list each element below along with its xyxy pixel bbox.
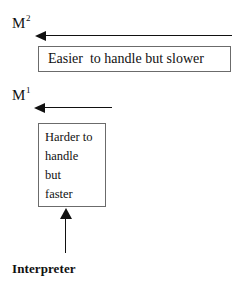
box-harder-line-3: but bbox=[45, 166, 105, 185]
arrow-left-middle bbox=[34, 102, 112, 114]
level-label-m2-base: M bbox=[12, 15, 26, 31]
box-easier-to-handle-but-slower: Easier to handle but slower bbox=[38, 46, 231, 72]
box-easier-label: Easier to handle but slower bbox=[48, 52, 204, 66]
arrow-shaft-bottom bbox=[65, 217, 67, 253]
arrow-left-top bbox=[35, 30, 232, 42]
diagram-canvas: M2 Easier to handle but slower M1 Harder… bbox=[0, 0, 247, 281]
arrow-up-bottom bbox=[59, 208, 72, 253]
box-harder-line-2: handle bbox=[45, 147, 105, 166]
box-harder-line-1: Harder to bbox=[45, 128, 105, 147]
box-harder-line-4: faster bbox=[45, 185, 105, 204]
level-label-m1: M1 bbox=[12, 88, 30, 103]
level-label-m1-superscript: 1 bbox=[26, 85, 31, 95]
box-harder-to-handle-but-faster: Harder to handle but faster bbox=[38, 123, 106, 207]
level-label-m2-superscript: 2 bbox=[26, 13, 31, 23]
caption-interpreter: Interpreter bbox=[12, 262, 76, 275]
level-label-m1-base: M bbox=[12, 87, 26, 103]
box-harder-label: Harder to handle but faster bbox=[45, 128, 105, 204]
level-label-m2: M2 bbox=[12, 16, 30, 31]
arrow-shaft-top bbox=[44, 35, 232, 36]
arrow-shaft-middle bbox=[43, 107, 112, 108]
